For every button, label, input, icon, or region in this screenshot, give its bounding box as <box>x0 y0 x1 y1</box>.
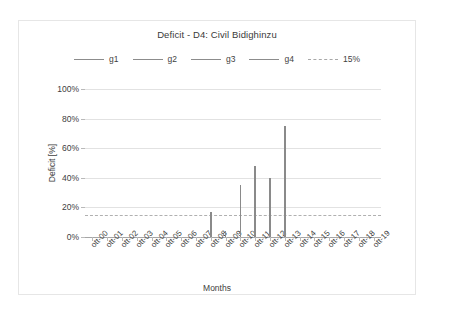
y-tick-mark <box>81 89 85 90</box>
y-gridline <box>85 207 381 208</box>
y-tick-mark <box>81 237 85 238</box>
plot-area: 0%20%40%60%80%100%ott-00ott-01ott-02ott-… <box>85 89 381 237</box>
y-tick-label: 80% <box>62 114 79 124</box>
data-spike <box>210 212 212 237</box>
plot-wrapper: 0%20%40%60%80%100%ott-00ott-01ott-02ott-… <box>19 21 415 294</box>
y-gridline <box>85 119 381 120</box>
y-tick-label: 0% <box>67 232 79 242</box>
y-tick-mark <box>81 148 85 149</box>
chart-container: Deficit - D4: Civil Bidighinzu g1g2g3g41… <box>18 20 416 295</box>
x-axis-title: Months <box>19 283 415 293</box>
y-tick-mark <box>81 207 85 208</box>
y-tick-label: 60% <box>62 143 79 153</box>
y-tick-label: 40% <box>62 173 79 183</box>
threshold-line <box>85 215 381 216</box>
data-spike <box>284 126 286 237</box>
y-tick-label: 20% <box>62 202 79 212</box>
y-tick-label: 100% <box>57 84 79 94</box>
y-tick-mark <box>81 178 85 179</box>
y-gridline <box>85 148 381 149</box>
y-tick-mark <box>81 119 85 120</box>
data-spike <box>254 166 256 237</box>
y-gridline <box>85 178 381 179</box>
data-spike <box>240 185 242 237</box>
y-gridline <box>85 89 381 90</box>
data-spike <box>225 231 227 237</box>
data-spike <box>269 178 271 237</box>
